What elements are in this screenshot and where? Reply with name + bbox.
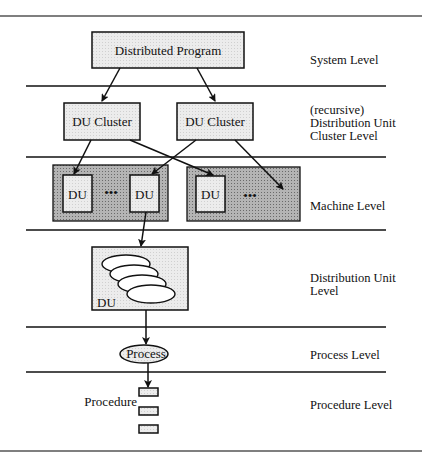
- process-node: Process: [120, 345, 168, 363]
- machine-right-node: DU •••: [187, 167, 300, 221]
- ellipsis-right: •••: [243, 188, 257, 203]
- level-label-system: System Level: [310, 54, 378, 67]
- du-detail-node: DU: [92, 247, 188, 310]
- du-3-label: DU: [201, 187, 220, 202]
- ellipsis-left: •••: [104, 185, 118, 200]
- arrow-program-to-right-cluster: [197, 68, 215, 101]
- procedure-nodes: [139, 388, 158, 433]
- process-label: Process: [126, 346, 166, 361]
- du-2-label: DU: [135, 187, 154, 202]
- hierarchy-diagram: Distributed Program DU Cluster DU Cluste…: [0, 0, 431, 466]
- procedure-label: Procedure: [84, 394, 137, 409]
- procedure-box-2: [139, 407, 158, 415]
- du-detail-label: DU: [97, 295, 116, 310]
- distributed-program-label: Distributed Program: [115, 43, 222, 58]
- level-label-du-line2: Level: [310, 285, 396, 298]
- du-1-label: DU: [68, 187, 87, 202]
- level-label-procedure: Procedure Level: [310, 399, 392, 412]
- du-cluster-right-node: DU Cluster: [177, 103, 253, 140]
- level-label-cluster-line3: Cluster Level: [310, 130, 396, 143]
- procedure-box-3: [139, 425, 158, 433]
- du-cluster-left-label: DU Cluster: [72, 114, 132, 129]
- distributed-program-node: Distributed Program: [92, 32, 244, 68]
- level-label-machine: Machine Level: [310, 200, 385, 213]
- machine-left-node: DU ••• DU: [53, 165, 168, 221]
- du-cluster-left-node: DU Cluster: [64, 103, 140, 140]
- level-label-cluster: (recursive) Distribution Unit Cluster Le…: [310, 104, 396, 143]
- procedure-box-1: [139, 388, 158, 396]
- arrow-program-to-left-cluster: [102, 68, 120, 101]
- level-label-du: Distribution Unit Level: [310, 272, 396, 298]
- level-label-process: Process Level: [310, 349, 380, 362]
- du-cluster-right-label: DU Cluster: [185, 114, 245, 129]
